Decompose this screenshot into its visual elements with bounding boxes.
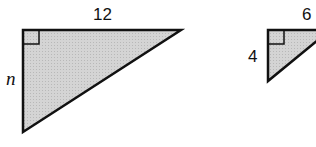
small-left-leg-label: 4: [248, 48, 257, 65]
small-triangle: [268, 30, 316, 81]
triangles-diagram: [0, 0, 316, 147]
small-top-leg-label: 6: [302, 6, 311, 23]
large-left-leg-label: n: [6, 69, 16, 88]
large-triangle: [23, 30, 181, 132]
large-top-leg-label: 12: [93, 6, 112, 23]
